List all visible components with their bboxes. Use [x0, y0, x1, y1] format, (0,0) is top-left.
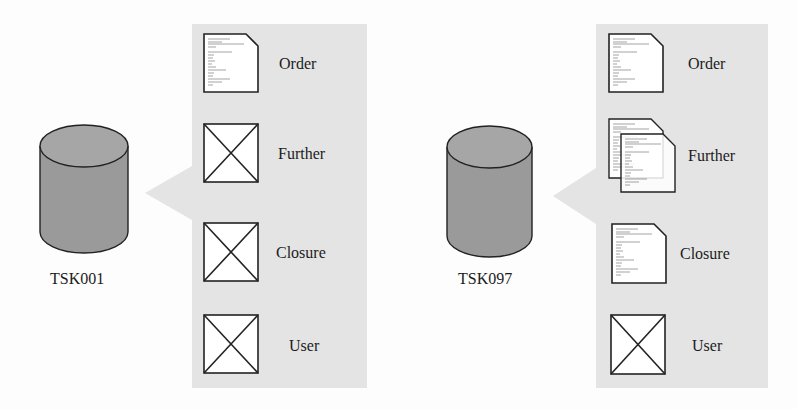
item-label-order: Order	[688, 55, 725, 73]
missing-placeholder-icon	[204, 124, 258, 182]
missing-placeholder-icon	[204, 223, 258, 281]
missing-placeholder-icon	[611, 315, 665, 374]
item-label-user: User	[692, 337, 722, 355]
document-icon	[612, 224, 666, 283]
store-label-tsk097: TSK097	[458, 270, 512, 288]
store-label-tsk001: TSK001	[50, 270, 104, 288]
item-label-user: User	[289, 337, 319, 355]
document-icon	[204, 34, 258, 92]
item-label-further: Further	[688, 147, 735, 165]
item-label-closure: Closure	[680, 245, 730, 263]
item-label-further: Further	[278, 145, 325, 163]
diagram-canvas	[0, 0, 797, 409]
item-label-order: Order	[279, 55, 316, 73]
item-label-closure: Closure	[276, 244, 326, 262]
missing-placeholder-icon	[204, 315, 258, 373]
database-cylinder-icon	[40, 125, 128, 253]
document-icon	[609, 34, 663, 92]
database-cylinder-icon	[447, 126, 532, 257]
